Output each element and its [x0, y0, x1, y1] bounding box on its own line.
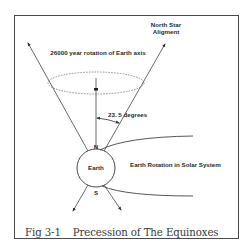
rotation-axis-label: 26000 year rotation of Earth axis: [50, 49, 145, 56]
diagram-figure: North Star Aligment 26000 year rotation …: [0, 0, 248, 252]
caption-title: Precession of The Equinoxes: [73, 227, 219, 238]
axis-marker: [94, 88, 98, 91]
solar-rotation-label: Earth Rotation in Solar System: [130, 161, 221, 168]
north-star-label: North Star Aligment: [151, 21, 181, 35]
north-pole-label: N: [94, 143, 98, 150]
caption-number: Fig 3-1: [25, 227, 61, 238]
orbit-curve-bottom: [102, 186, 193, 196]
tilt-angle-arc: [97, 118, 119, 123]
north-star-label-line1: North Star: [151, 21, 181, 28]
south-arrow-left: [73, 185, 88, 211]
south-pole-label: S: [94, 189, 98, 196]
figure-caption: Fig 3-1Precession of The Equinoxes: [25, 227, 218, 238]
orbit-curve-top: [100, 136, 193, 150]
south-arrow-right: [104, 185, 121, 210]
north-star-label-line2: Aligment: [151, 28, 181, 35]
tilt-angle-label: 23. 5 degrees: [108, 111, 147, 118]
diagram-canvas: [0, 0, 248, 252]
cone-arrow-left: [28, 43, 88, 151]
north-star-arrow: [104, 44, 165, 151]
earth-label: Earth: [88, 164, 104, 171]
